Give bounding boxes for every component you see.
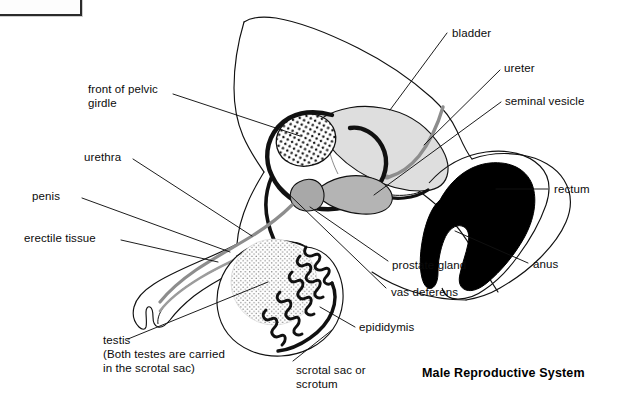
label-vas-deferens: vas deferens (391, 286, 458, 300)
label-testis: testis(Both testes are carriedin the scr… (103, 333, 225, 375)
label-rectum: rectum (554, 183, 590, 197)
abdominal-wall-inner (237, 172, 264, 244)
leader-penis (82, 198, 230, 252)
label-scrotal-sac-line1: scrotal sac or (296, 364, 366, 376)
label-seminal-vesicle: seminal vesicle (505, 95, 584, 109)
label-erectile-tissue: erectile tissue (24, 232, 96, 246)
label-urethra: urethra (84, 151, 121, 165)
label-epididymis: epididymis (359, 321, 414, 335)
label-testis-line2: (Both testes are carried (103, 348, 225, 360)
leader-urethra (133, 159, 252, 236)
label-prostate-gland: prostate gland (392, 259, 466, 273)
label-scrotal-sac-line2: scrotum (296, 378, 338, 390)
rectum-group (420, 151, 549, 299)
torso-left-flank (234, 22, 264, 172)
leader-erectile-tissue (121, 240, 218, 262)
label-penis: penis (32, 190, 60, 204)
label-testis-line1: testis (103, 334, 130, 346)
leader-ureter (424, 70, 500, 145)
label-scrotal-sac: scrotal sac orscrotum (296, 363, 366, 391)
prostate-shape (290, 179, 324, 211)
leader-front-of-pelvic-girdle (173, 94, 300, 136)
label-bladder: bladder (452, 27, 491, 41)
label-testis-line3: in the scrotal sac) (103, 362, 195, 374)
label-front-of-pelvic-girdle-line1: front of pelvic (88, 83, 158, 95)
figure-title: Male Reproductive System (422, 366, 585, 380)
label-ureter: ureter (504, 62, 535, 76)
label-front-of-pelvic-girdle-line2: girdle (88, 97, 117, 109)
label-front-of-pelvic-girdle: front of pelvicgirdle (88, 82, 158, 110)
figure-canvas: front of pelvicgirdle urethra penis erec… (0, 0, 618, 413)
prostate-gland-group (290, 179, 324, 211)
label-anus: anus (533, 258, 558, 272)
